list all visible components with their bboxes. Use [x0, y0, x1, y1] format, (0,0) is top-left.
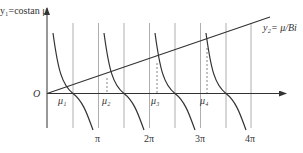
root-label-1: μ₁: [58, 95, 67, 106]
line-y2: [47, 17, 270, 94]
origin-label: O: [33, 88, 40, 99]
curve1-label: y₁=costan μ: [0, 5, 48, 16]
diagram-canvas: [0, 0, 303, 153]
x-tick-2pi: 2π: [144, 133, 154, 144]
root-label-2: μ₂: [102, 95, 111, 106]
root-dashes: [107, 48, 207, 93]
x-tick-pi: π: [95, 133, 100, 144]
root-label-3: μ₃: [151, 95, 160, 106]
x-tick-4pi: 4π: [245, 133, 255, 144]
root-label-4: μ₄: [200, 95, 209, 106]
curve2-label: y₂= μ/Bi: [263, 22, 297, 33]
x-tick-3pi: 3π: [195, 133, 205, 144]
